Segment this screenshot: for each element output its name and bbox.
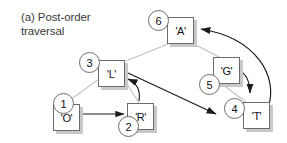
order-circle-6: 6 — [148, 10, 169, 31]
order-circle-4: 4 — [224, 98, 245, 119]
order-circle-1: 1 — [53, 93, 74, 114]
figure-caption: (a) Post-order traversal — [21, 11, 91, 38]
arrow-r-to-l — [128, 79, 139, 101]
order-circle-2: 2 — [118, 116, 139, 137]
node-l: 'L' — [98, 60, 125, 87]
order-circle-3: 3 — [79, 52, 100, 73]
node-t: 'T' — [243, 102, 270, 129]
node-a: 'A' — [167, 17, 194, 44]
tree-edge-a-l — [126, 44, 168, 61]
order-circle-5: 5 — [199, 74, 220, 95]
post-order-traversal-figure: (a) Post-order traversal 6 3 1 2 5 4 'A'… — [0, 0, 287, 143]
tree-edge-a-g — [194, 44, 219, 57]
